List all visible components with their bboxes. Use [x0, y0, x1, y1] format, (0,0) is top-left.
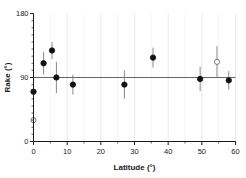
- x-tick-label-0: 0: [31, 147, 35, 156]
- y-tick-label-90: 90: [20, 73, 28, 82]
- y-axis-title: Rake (°): [3, 62, 12, 92]
- data-point-filled-2: [41, 61, 46, 66]
- x-tick-label-30: 30: [130, 147, 138, 156]
- y-tick-label-0: 0: [24, 137, 28, 146]
- data-point-filled-6: [122, 82, 127, 87]
- x-tick-label-40: 40: [164, 147, 172, 156]
- data-point-filled-3: [49, 48, 54, 53]
- data-point-filled-4: [54, 75, 59, 80]
- x-tick-label-50: 50: [198, 147, 206, 156]
- data-point-filled-8: [197, 76, 202, 81]
- x-tick-label-20: 20: [97, 147, 105, 156]
- data-point-open-9: [214, 59, 219, 64]
- plot-canvas: 0102030405060090180Latitude (°)Rake (°): [0, 0, 246, 178]
- y-tick-label-180: 180: [16, 9, 29, 18]
- data-point-filled-5: [70, 82, 75, 87]
- data-point-filled-7: [150, 55, 155, 60]
- x-tick-label-10: 10: [63, 147, 71, 156]
- x-tick-label-60: 60: [231, 147, 239, 156]
- rake-vs-latitude-chart: 0102030405060090180Latitude (°)Rake (°): [0, 0, 246, 178]
- data-point-filled-10: [226, 78, 231, 83]
- x-axis-title: Latitude (°): [114, 163, 156, 172]
